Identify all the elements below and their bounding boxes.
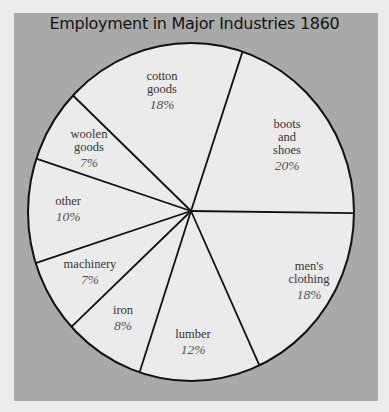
svg-text:boots: boots [273, 117, 300, 131]
svg-text:20%: 20% [275, 158, 300, 173]
svg-text:18%: 18% [150, 97, 175, 112]
svg-text:men's: men's [295, 259, 324, 273]
svg-text:cotton: cotton [146, 69, 178, 83]
svg-text:and: and [278, 130, 297, 144]
svg-text:goods: goods [147, 82, 177, 96]
svg-text:iron: iron [113, 303, 134, 317]
svg-text:lumber: lumber [175, 327, 211, 341]
svg-text:8%: 8% [114, 318, 132, 333]
svg-text:clothing: clothing [289, 272, 331, 286]
svg-text:7%: 7% [81, 272, 99, 287]
svg-text:7%: 7% [80, 155, 98, 170]
slice-label-cotton-goods: cottongoods18% [146, 69, 178, 112]
svg-text:machinery: machinery [64, 257, 118, 271]
slice-label-iron: iron8% [113, 303, 134, 333]
svg-text:goods: goods [74, 140, 104, 154]
svg-text:shoes: shoes [273, 143, 301, 157]
svg-text:12%: 12% [181, 342, 206, 357]
svg-text:other: other [55, 194, 82, 208]
svg-text:woolen: woolen [71, 127, 109, 141]
svg-text:18%: 18% [297, 287, 322, 302]
svg-text:10%: 10% [56, 209, 81, 224]
slice-label-other: other10% [55, 194, 82, 224]
pie-chart: bootsandshoes20%men'sclothing18%lumber12… [0, 0, 389, 412]
slice-label-boots-and-shoes: bootsandshoes20% [273, 117, 301, 173]
